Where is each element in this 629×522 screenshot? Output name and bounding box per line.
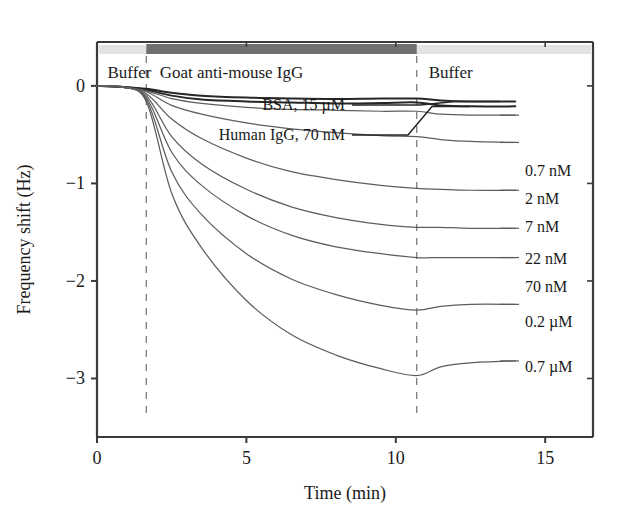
concentration-label: 0.7 nM [525, 162, 571, 179]
concentration-label: 7 nM [525, 218, 559, 235]
phase-label-buffer-right: Buffer [429, 63, 473, 82]
concentration-label: 22 nM [525, 250, 567, 267]
x-tick-label: 5 [242, 448, 251, 468]
y-axis-ticks: 0−1−2−3 [66, 76, 98, 389]
x-tick-label: 0 [93, 448, 102, 468]
x-tick-label: 10 [387, 448, 405, 468]
y-tick-label: −2 [66, 271, 85, 291]
phase-bar-analyte [146, 44, 416, 54]
concentration-label: 2 nM [525, 190, 559, 207]
series-curve [97, 86, 515, 311]
plot-frame [97, 42, 593, 437]
phase-label-analyte: Goat anti-mouse IgG [160, 63, 304, 82]
phase-label-buffer-left: Buffer [107, 63, 151, 82]
chart-svg: 0−1−2−3 051015 Buffer Goat anti-mouse Ig… [0, 0, 629, 522]
concentration-label: 0.2 µM [525, 313, 572, 331]
concentration-labels-group: 0.7 nM2 nM7 nM22 nM70 nM0.2 µM0.7 µM [500, 115, 572, 376]
concentration-label: 70 nM [525, 278, 567, 295]
phase-bar-group [99, 44, 591, 54]
x-tick-label: 15 [536, 448, 554, 468]
y-tick-label: 0 [76, 76, 85, 96]
y-tick-label: −1 [66, 173, 85, 193]
concentration-label: 0.7 µM [525, 358, 572, 376]
y-tick-label: −3 [66, 368, 85, 388]
x-axis-title: Time (min) [304, 483, 386, 504]
annotation-bsa: BSA, 15 µM [262, 96, 345, 114]
y-axis-title: Frequency shift (Hz) [14, 165, 35, 315]
frequency-shift-chart: 0−1−2−3 051015 Buffer Goat anti-mouse Ig… [0, 0, 629, 522]
annotation-human-igg: Human IgG, 70 nM [219, 126, 345, 144]
